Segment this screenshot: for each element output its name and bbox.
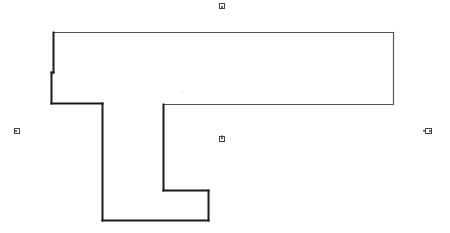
door-marker-left-icon[interactable] <box>15 129 20 134</box>
artifacts <box>182 91 183 92</box>
room-marker-center-icon[interactable] <box>220 135 225 142</box>
floor-plan-canvas <box>0 0 450 233</box>
markers <box>15 4 432 142</box>
door-marker-right-icon[interactable] <box>423 129 432 134</box>
room-outline <box>52 33 394 221</box>
faint-dot <box>182 91 183 92</box>
door-marker-top-icon[interactable] <box>220 4 225 9</box>
